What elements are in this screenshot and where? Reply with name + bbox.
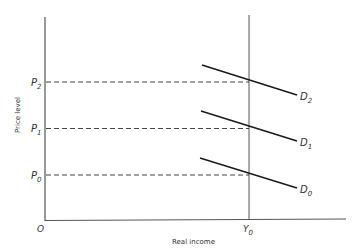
diagram-canvas: P2 P1 P0 D2 D1 D0 O Y0 Real income Price…	[0, 0, 355, 252]
label-p2: P2	[31, 77, 42, 91]
origin-label: O	[37, 224, 44, 234]
label-d2: D2	[300, 91, 313, 105]
label-d1: D1	[300, 137, 312, 151]
x-axis	[45, 219, 346, 221]
y-axis-title: Price level	[14, 97, 22, 133]
label-p0: P0	[31, 170, 42, 184]
label-p1: P1	[31, 123, 42, 137]
x-axis-title: Real income	[172, 238, 215, 246]
label-y0: Y0	[243, 224, 254, 237]
label-d0: D0	[300, 184, 313, 198]
